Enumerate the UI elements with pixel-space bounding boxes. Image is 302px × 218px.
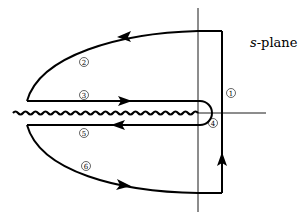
svg-text:5: 5: [82, 130, 86, 138]
segment-label-2: 2: [80, 58, 89, 67]
segment-label-4: 4: [209, 119, 218, 128]
segment-label-1: 1: [227, 89, 236, 98]
svg-text:6: 6: [84, 163, 89, 171]
segment-label-3: 3: [80, 91, 89, 100]
plane-title: s-plane: [250, 35, 298, 50]
svg-text:4: 4: [211, 120, 216, 128]
svg-text:3: 3: [82, 92, 86, 100]
svg-text:2: 2: [82, 59, 86, 67]
segment-label-5: 5: [80, 129, 89, 138]
contour-segment-2: [27, 31, 222, 101]
segment-label-6: 6: [82, 162, 91, 171]
branch-cut: [13, 112, 198, 115]
svg-text:1: 1: [229, 90, 233, 98]
contour-diagram: 1 2 3 4 5 6 s-plane: [0, 0, 302, 218]
